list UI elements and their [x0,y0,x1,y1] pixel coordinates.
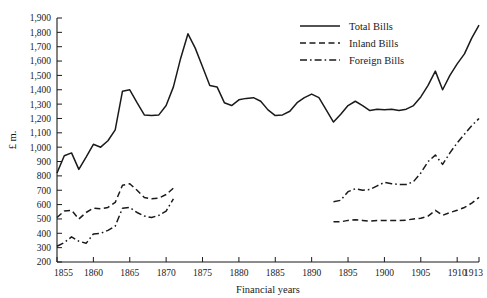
y-axis-tick-label: 1,400 [30,85,52,95]
x-axis-tick-label: 1900 [375,268,394,278]
series-line-foreign-bills [57,199,173,246]
x-axis-tick-label: 1860 [84,268,103,278]
y-axis-tick-label: 300 [37,243,52,253]
y-axis-tick-label: 800 [37,171,52,181]
y-axis-tick-label: 1,100 [30,128,52,138]
y-axis-tick-label: 500 [37,214,52,224]
y-axis-title: £ m. [7,131,18,150]
y-axis-tick-label: 700 [37,186,52,196]
legend-label: Total Bills [349,21,393,32]
y-axis-tick-label: 1,600 [30,56,52,66]
y-axis-tick-label: 1,300 [30,100,52,110]
y-axis-tick-label: 1,900 [30,13,52,23]
bills-line-chart: 2003004005006007008009001,0001,1001,2001… [0,0,487,298]
y-axis-tick-label: 600 [37,200,52,210]
y-axis-tick-label: 1,200 [30,114,52,124]
x-axis-tick-label: 1855 [54,268,73,278]
series-line-total-bills [57,25,479,173]
x-axis-tick-label: 1905 [411,268,430,278]
x-axis-tick-label: 1895 [339,268,358,278]
legend-label: Inland Bills [349,38,398,49]
x-axis-tick-label: 1890 [302,268,321,278]
x-axis-tick-label: 1865 [120,268,139,278]
x-axis-tick-label: 1870 [157,268,176,278]
chart-container: 2003004005006007008009001,0001,1001,2001… [0,0,487,298]
series-line-inland-bills [333,197,479,221]
legend-label: Foreign Bills [349,55,404,66]
x-axis-tick-label: 1913 [464,268,483,278]
y-axis-tick-label: 1,700 [30,42,52,52]
series-line-inland-bills [57,184,173,219]
y-axis-tick-label: 1,800 [30,28,52,38]
y-axis-tick-label: 200 [37,257,52,267]
y-axis-tick-label: 400 [37,229,52,239]
y-axis-tick-label: 1,000 [30,143,52,153]
series-line-foreign-bills [333,118,479,201]
y-axis-tick-label: 900 [37,157,52,167]
x-axis-tick-label: 1885 [266,268,285,278]
x-axis-tick-label: 1880 [229,268,248,278]
x-axis-tick-label: 1875 [193,268,212,278]
x-axis-title: Financial years [236,284,300,295]
chart-legend: Total BillsInland BillsForeign Bills [300,21,404,66]
y-axis-tick-label: 1,500 [30,71,52,81]
